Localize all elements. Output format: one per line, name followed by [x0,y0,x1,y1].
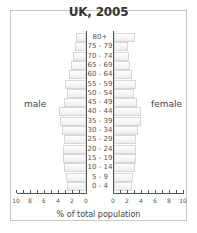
age-group-label: 10 - 14 [87,163,113,172]
male-bar [76,33,87,42]
x-axis-label: % of total population [0,210,197,219]
female-x-tick [169,190,170,193]
male-axis-line [86,31,87,193]
female-x-tick-label: 2 [121,197,133,204]
age-group-label: 40 - 44 [87,107,113,116]
female-bar [114,33,135,42]
male-bar [67,89,86,98]
male-bar [66,173,86,182]
age-group-label: 20 - 24 [87,145,113,154]
age-group-label: 30 - 34 [87,126,113,135]
age-group-label: 60 - 64 [87,70,113,79]
age-group-label: 80+ [87,33,113,42]
female-x-tick [113,190,114,193]
male-bar [69,70,87,79]
male-bar [60,117,86,126]
female-x-tick [120,190,121,193]
female-label: female [151,99,182,109]
female-bar [114,173,133,182]
age-group-label: 25 - 29 [87,135,113,144]
age-group-label: 50 - 54 [87,89,113,98]
male-x-tick-label: 2 [66,197,78,204]
age-group-label: 75 - 79 [87,42,113,51]
female-bar [114,126,138,135]
male-bar [63,154,86,163]
female-bar [114,163,135,172]
female-bar [114,42,128,51]
male-bar [64,163,86,172]
female-x-tick [141,190,142,193]
female-x-tick-label: 4 [135,197,147,204]
female-bar [114,80,136,89]
female-x-tick-label: 6 [149,197,161,204]
male-x-tick [65,190,66,193]
male-x-tick [16,190,17,193]
female-bar [114,61,130,70]
age-group-label: 5 - 9 [87,173,113,182]
male-bar [62,126,86,135]
male-x-tick [86,190,87,193]
male-x-tick-label: 10 [10,197,22,204]
age-group-label: 35 - 39 [87,117,113,126]
female-bar [114,145,136,154]
male-x-tick [44,190,45,193]
male-bar [59,107,86,116]
male-x-tick-label: 8 [24,197,36,204]
male-x-tick [23,190,24,193]
male-x-tick-label: 4 [52,197,64,204]
female-bar [114,98,137,107]
male-x-tick [72,190,73,193]
male-bar [71,61,86,70]
age-group-label: 0 - 4 [87,182,113,191]
age-group-label: 45 - 49 [87,98,113,107]
female-bar [114,70,132,79]
male-x-tick [58,190,59,193]
female-x-tick [155,190,156,193]
female-bar [114,135,136,144]
female-bar [114,154,136,163]
male-bar [67,182,86,191]
female-axis-line [113,31,114,193]
female-x-tick-label: 10 [177,197,189,204]
male-x-axis [17,193,87,194]
population-pyramid: 80+75 - 7970 - 7465 - 6960 - 6455 - 5950… [0,0,197,233]
female-x-tick [148,190,149,193]
female-x-axis [113,193,184,194]
male-bar [64,98,86,107]
male-x-tick-label: 6 [38,197,50,204]
female-bar [114,182,132,191]
female-x-tick [183,190,184,193]
female-x-tick [176,190,177,193]
age-group-label: 55 - 59 [87,80,113,89]
male-x-tick [30,190,31,193]
male-bar [65,80,86,89]
female-bar [114,52,129,61]
female-bar [114,107,141,116]
age-group-label: 15 - 19 [87,154,113,163]
age-group-label: 65 - 69 [87,61,113,70]
male-x-tick-label: 0 [80,197,92,204]
male-bar [64,135,86,144]
female-x-tick-label: 0 [107,197,119,204]
female-x-tick [127,190,128,193]
age-group-label: 70 - 74 [87,52,113,61]
male-bar [75,42,86,51]
female-x-tick [134,190,135,193]
male-bar [63,145,86,154]
female-bar [114,89,134,98]
female-x-tick [162,190,163,193]
male-x-tick [51,190,52,193]
male-bar [73,52,86,61]
male-x-tick [37,190,38,193]
male-label: male [24,99,46,109]
female-bar [114,117,141,126]
female-x-tick-label: 8 [163,197,175,204]
male-x-tick [79,190,80,193]
